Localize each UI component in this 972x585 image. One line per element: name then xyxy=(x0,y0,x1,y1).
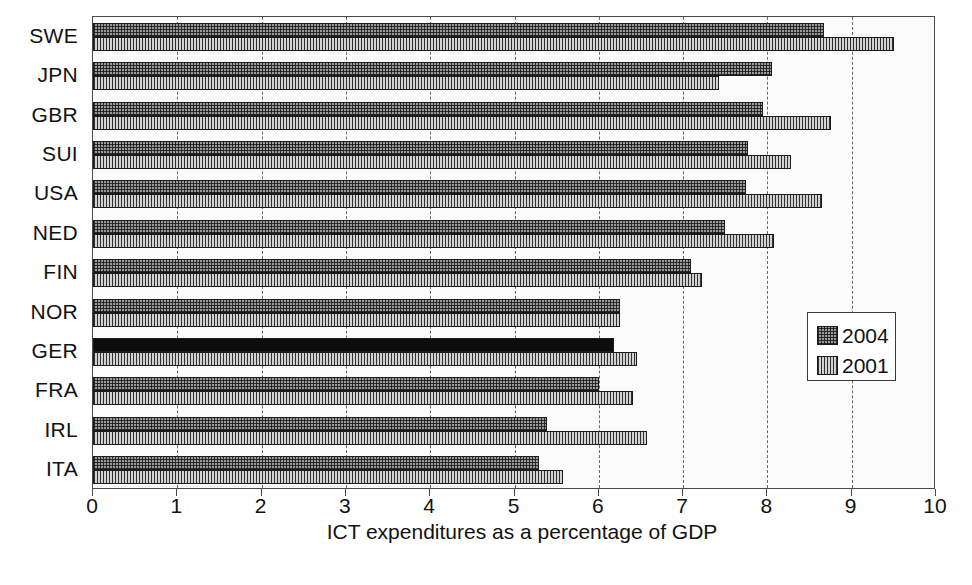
bar-irl-2004 xyxy=(93,417,547,431)
y-axis-label-fin: FIN xyxy=(43,261,78,282)
bar-fra-2004 xyxy=(93,377,599,391)
bar-row xyxy=(93,180,934,208)
y-axis-label-gbr: GBR xyxy=(32,104,78,125)
x-tick-label-6: 6 xyxy=(592,495,604,516)
y-axis-label-ned: NED xyxy=(33,222,78,243)
bar-row xyxy=(93,377,934,405)
y-axis-label-nor: NOR xyxy=(30,301,78,322)
y-axis-label-fra: FRA xyxy=(35,379,78,400)
bar-fin-2001 xyxy=(93,273,702,287)
bar-sui-2001 xyxy=(93,155,791,169)
bar-ned-2001 xyxy=(93,234,774,248)
cross-hatch-swatch-icon xyxy=(817,326,838,345)
y-axis-labels: SWEJPNGBRSUIUSANEDFINNORGERFRAIRLITA xyxy=(0,16,86,489)
bar-swe-2004 xyxy=(93,23,824,37)
bar-ned-2004 xyxy=(93,220,725,234)
y-axis-label-sui: SUI xyxy=(42,143,78,164)
bar-ita-2004 xyxy=(93,456,539,470)
x-tick-label-0: 0 xyxy=(86,495,98,516)
y-axis-label-ita: ITA xyxy=(46,458,78,479)
x-tick-label-7: 7 xyxy=(676,495,688,516)
y-axis-label-usa: USA xyxy=(34,182,78,203)
legend-label-2001: 2001 xyxy=(842,355,889,376)
x-axis-title-text: ICT expenditures as a percentage of GDP xyxy=(327,520,718,544)
bar-swe-2001 xyxy=(93,37,894,51)
bar-ger-2004 xyxy=(93,338,614,352)
x-tick-label-4: 4 xyxy=(423,495,435,516)
x-tick-label-1: 1 xyxy=(170,495,182,516)
legend-label-2004: 2004 xyxy=(842,325,889,346)
bar-row xyxy=(93,62,934,90)
x-tick-label-5: 5 xyxy=(508,495,520,516)
bar-row xyxy=(93,456,934,484)
bar-usa-2004 xyxy=(93,180,746,194)
bar-rows xyxy=(93,17,934,488)
bar-row xyxy=(93,417,934,445)
x-tick-label-10: 10 xyxy=(923,495,946,516)
x-tick-label-2: 2 xyxy=(255,495,267,516)
bar-gbr-2004 xyxy=(93,102,763,116)
bar-row xyxy=(93,220,934,248)
bar-row xyxy=(93,141,934,169)
y-axis-label-swe: SWE xyxy=(29,25,78,46)
bar-nor-2001 xyxy=(93,313,620,327)
x-axis-ticks: 012345678910 xyxy=(0,489,972,523)
x-axis-title: ICT expenditures as a percentage of GDP xyxy=(0,520,972,544)
bar-fin-2004 xyxy=(93,259,691,273)
legend-item-2004: 2004 xyxy=(817,320,895,350)
legend-item-2001: 2001 xyxy=(817,350,895,380)
bar-nor-2004 xyxy=(93,299,620,313)
x-tick-label-9: 9 xyxy=(845,495,857,516)
y-axis-label-irl: IRL xyxy=(44,419,78,440)
bar-fra-2001 xyxy=(93,391,633,405)
bar-row xyxy=(93,23,934,51)
bar-jpn-2004 xyxy=(93,62,772,76)
x-tick-label-8: 8 xyxy=(761,495,773,516)
chart-legend: 2004 2001 xyxy=(807,312,896,381)
bar-sui-2004 xyxy=(93,141,748,155)
bar-row xyxy=(93,102,934,130)
bar-jpn-2001 xyxy=(93,76,719,90)
bar-row xyxy=(93,259,934,287)
chart-figure: SWEJPNGBRSUIUSANEDFINNORGERFRAIRLITA 012… xyxy=(0,0,972,585)
bar-usa-2001 xyxy=(93,194,822,208)
y-axis-label-ger: GER xyxy=(32,340,78,361)
vertical-stripe-swatch-icon xyxy=(817,356,838,375)
bar-irl-2001 xyxy=(93,431,647,445)
bar-ger-2001 xyxy=(93,352,637,366)
y-axis-label-jpn: JPN xyxy=(37,64,78,85)
plot-area xyxy=(92,16,935,489)
bar-gbr-2001 xyxy=(93,116,831,130)
x-tick-label-3: 3 xyxy=(339,495,351,516)
bar-ita-2001 xyxy=(93,470,563,484)
